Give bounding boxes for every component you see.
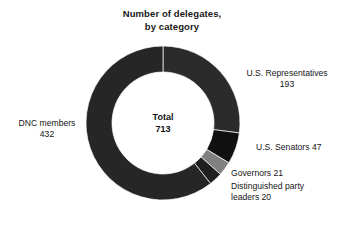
center-total-label: Total	[133, 112, 193, 124]
callout-us-representatives-value: 193	[234, 79, 340, 90]
callout-dnc-members: DNC members 432	[8, 118, 86, 140]
callout-distinguished-party-leaders-line-2: leaders 20	[231, 192, 304, 203]
callout-distinguished-party-leaders-line-1: Distinguished party	[231, 181, 304, 192]
callout-us-representatives-name: U.S. Representatives	[234, 68, 340, 79]
callout-us-senators: U.S. Senators 47	[256, 142, 321, 153]
callout-us-senators-text: U.S. Senators 47	[256, 142, 321, 153]
callout-distinguished-party-leaders: Distinguished party leaders 20	[231, 181, 304, 203]
callout-dnc-members-value: 432	[8, 129, 86, 140]
donut-center-total: Total 713	[133, 112, 193, 135]
callout-governors-text: Governors 21	[231, 168, 283, 179]
callout-dnc-members-name: DNC members	[8, 118, 86, 129]
callout-governors: Governors 21	[231, 168, 283, 179]
callout-us-representatives: U.S. Representatives 193	[234, 68, 340, 90]
center-total-value: 713	[133, 124, 193, 136]
chart-figure: Number of delegates, by category Total 7…	[0, 0, 344, 225]
